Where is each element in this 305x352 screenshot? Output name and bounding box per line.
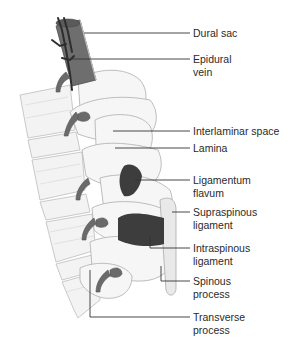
- label-interlaminar-space: Interlaminar space: [193, 125, 279, 138]
- label-intraspinous-ligament: Intraspinous ligament: [193, 242, 250, 267]
- label-spinous-process: Spinous process: [193, 275, 231, 300]
- label-epidural-vein: Epidural vein: [193, 53, 232, 78]
- label-supraspinous-ligament: Supraspinous ligament: [193, 206, 257, 231]
- label-lamina: Lamina: [193, 142, 227, 155]
- label-dural-sac: Dural sac: [193, 27, 237, 40]
- label-ligamentum-flavum: Ligamentum flavum: [193, 174, 251, 199]
- spine-illustration: [0, 0, 305, 352]
- label-transverse-process: Transverse process: [193, 311, 245, 336]
